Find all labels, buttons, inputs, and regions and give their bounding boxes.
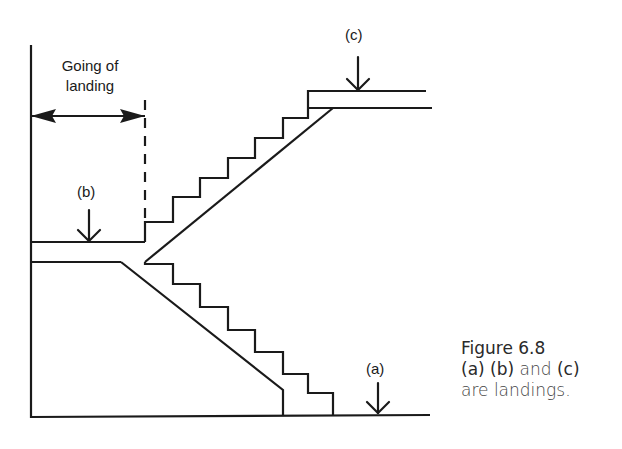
going-of-landing-label: Going of landing — [44, 56, 136, 96]
lower-flight-soffit — [121, 262, 283, 416]
upper-flight-soffit — [145, 108, 333, 262]
upper-flight-steps — [145, 108, 308, 242]
landing-c-top — [308, 91, 426, 108]
lower-flight-steps — [145, 262, 333, 416]
landing-c-arrow-icon — [347, 57, 369, 90]
landing-b-label: (b) — [77, 183, 95, 200]
caption-line-3: are landings. — [461, 380, 580, 401]
landing-a-arrow-icon — [367, 383, 389, 413]
caption-figure-number: Figure 6.8 — [461, 338, 580, 359]
staircase-landing-diagram: Going of landing (b) (c) (a) Figure 6.8 … — [0, 0, 622, 449]
going-of-landing-line1: Going of — [62, 57, 119, 74]
landing-c-label: (c) — [345, 26, 363, 43]
figure-caption: Figure 6.8 (a) (b) and (c) are landings. — [461, 338, 580, 401]
caption-ab: (a) (b) — [461, 359, 514, 379]
caption-line-2: (a) (b) and (c) — [461, 359, 580, 380]
landing-a-label: (a) — [366, 360, 384, 377]
going-of-landing-line2: landing — [66, 77, 114, 94]
caption-c: (c) — [557, 359, 580, 379]
caption-and: and — [514, 359, 557, 379]
ground-floor-line — [31, 415, 430, 417]
landing-b-arrow-icon — [78, 210, 100, 241]
